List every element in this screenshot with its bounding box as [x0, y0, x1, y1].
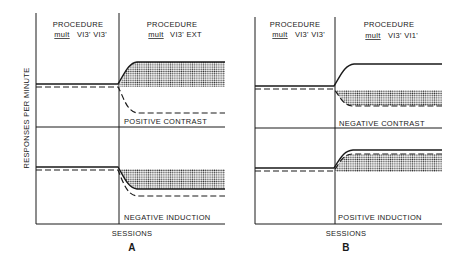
upper-label-b: NEGATIVE CONTRAST: [339, 119, 425, 128]
panel-label-a: A: [128, 242, 136, 253]
figure-canvas: PROCEDURE mult VI3' VI3' PROCEDURE mult …: [0, 0, 457, 275]
upper-label-a: POSITIVE CONTRAST: [124, 117, 207, 126]
panel-label-b: B: [342, 242, 350, 253]
phase2-mult-a: mult: [148, 30, 164, 39]
lower-label-b: POSITIVE INDUCTION: [338, 213, 422, 222]
solid-line-upper-b: [255, 64, 442, 86]
shaded-area-lower-b: [335, 154, 442, 172]
shaded-area-lower-a: [119, 169, 225, 189]
phase1-title-b: PROCEDURE: [270, 20, 321, 29]
phase2-mult-b: mult: [365, 31, 381, 40]
x-axis-label-a: SESSIONS: [112, 229, 153, 238]
y-axis-label: RESPONSES PER MINUTE: [22, 67, 31, 168]
lower-label-a: NEGATIVE INDUCTION: [124, 213, 211, 222]
phase2-schedule-a: VI3' EXT: [170, 30, 202, 39]
shaded-area-upper-b: [335, 90, 442, 106]
phase2-schedule-b: VI3' VI1': [388, 31, 418, 40]
phase1-mult-b: mult: [272, 30, 288, 39]
dashed-line-upper-a: [36, 87, 225, 113]
phase2-title-b: PROCEDURE: [364, 20, 415, 29]
phase1-mult-a: mult: [54, 30, 70, 39]
phase1-schedule-b: VI3' VI3': [295, 30, 325, 39]
phase2-title-a: PROCEDURE: [147, 20, 198, 29]
x-axis-label-b: SESSIONS: [326, 229, 367, 238]
phase1-title-a: PROCEDURE: [53, 20, 104, 29]
phase1-schedule-a: VI3' VI3': [77, 30, 107, 39]
panel-b: PROCEDURE mult VI3' VI3' PROCEDURE mult …: [255, 17, 442, 253]
panel-a: PROCEDURE mult VI3' VI3' PROCEDURE mult …: [36, 13, 225, 253]
shaded-area-upper-a: [119, 62, 225, 87]
